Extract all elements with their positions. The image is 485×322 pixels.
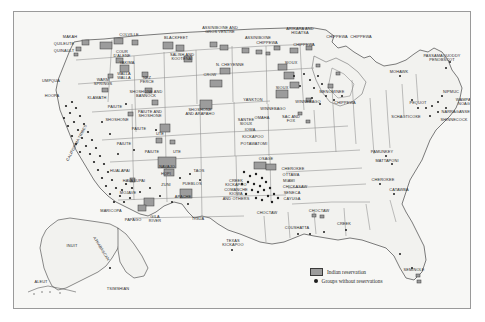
- legend-item-reservation: Indian reservation: [310, 268, 430, 276]
- map-frame: MAKAHQUILEUTEQUINAULTCOLVILLECOUR D'ALEN…: [13, 11, 471, 309]
- map-canvas: [14, 12, 470, 308]
- alaska-inset: [28, 218, 148, 295]
- legend-label-groups: Groups without reservations: [322, 278, 383, 284]
- map-figure: MAKAHQUILEUTEQUINAULTCOLVILLECOUR D'ALEN…: [0, 0, 485, 322]
- reservation-swatch-icon: [310, 268, 323, 276]
- map-legend: Indian reservation Groups without reserv…: [310, 268, 430, 287]
- legend-label-reservation: Indian reservation: [327, 269, 366, 275]
- legend-item-groups: Groups without reservations: [310, 278, 430, 284]
- group-dot-icon: [314, 279, 318, 283]
